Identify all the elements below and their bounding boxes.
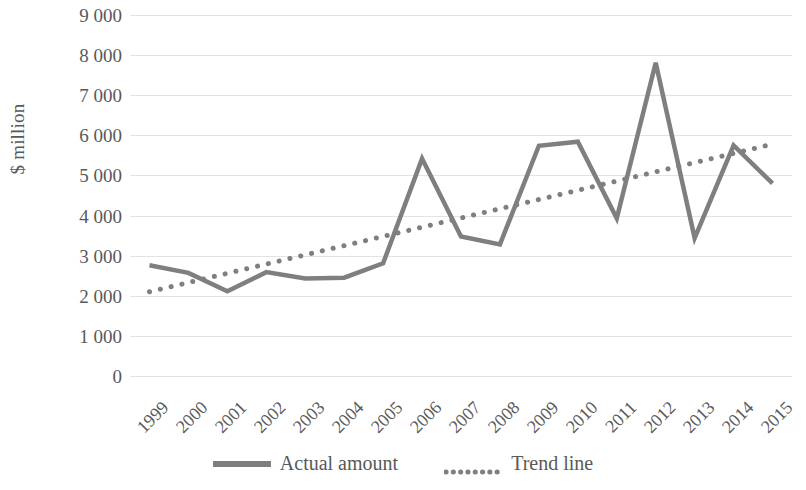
x-axis-tick-label: 2002	[245, 398, 289, 442]
legend-label: Trend line	[511, 452, 593, 475]
legend-label: Actual amount	[280, 452, 398, 475]
y-axis-tick-label: 2 000	[30, 287, 122, 306]
y-axis-tick-label: 4 000	[30, 207, 122, 226]
line-chart: $ million 9 0008 0007 0006 0005 0004 000…	[0, 0, 806, 490]
chart-legend: Actual amountTrend line	[0, 452, 806, 475]
x-axis-tick-label: 2010	[557, 398, 601, 442]
y-axis-title: $ million	[7, 79, 29, 199]
x-axis-tick-label: 1999	[128, 398, 172, 442]
legend-entry[interactable]: Trend line	[444, 452, 593, 475]
plot-series-svg	[130, 0, 792, 390]
x-axis-tick-label: 2003	[284, 398, 328, 442]
x-axis-tick-label: 2009	[518, 398, 562, 442]
y-axis-tick-label: 8 000	[30, 46, 122, 65]
y-axis-tick-label: 0	[30, 367, 122, 386]
y-axis-tick-label: 7 000	[30, 86, 122, 105]
y-axis-tick-label: 5 000	[30, 166, 122, 185]
x-axis-tick-label: 2004	[323, 398, 367, 442]
x-axis-tick-label: 2008	[479, 398, 523, 442]
y-axis-tick-labels: 9 0008 0007 0006 0005 0004 0003 0002 000…	[30, 0, 122, 390]
legend-entry[interactable]: Actual amount	[213, 452, 398, 475]
x-axis-tick-label: 2012	[635, 398, 679, 442]
solid-line-swatch	[213, 461, 271, 467]
series-line-trend-line	[149, 144, 772, 292]
x-axis-tick-label: 2015	[751, 398, 795, 442]
x-axis-tick-label: 2013	[674, 398, 718, 442]
dotted-line-swatch	[444, 461, 502, 467]
x-axis-tick-label: 2001	[206, 398, 250, 442]
series-line-actual-amount	[149, 63, 772, 292]
x-axis-tick-label: 2006	[401, 398, 445, 442]
x-axis-tick-label: 2007	[440, 398, 484, 442]
x-axis-tick-labels: 1999200020012002200320042005200620072008…	[130, 390, 792, 460]
y-axis-tick-label: 3 000	[30, 247, 122, 266]
x-axis-tick-label: 2005	[362, 398, 406, 442]
plot-area	[130, 0, 792, 390]
y-axis-tick-label: 1 000	[30, 327, 122, 346]
x-axis-tick-label: 2011	[596, 398, 640, 442]
x-axis-tick-label: 2000	[167, 398, 211, 442]
y-axis-tick-label: 6 000	[30, 126, 122, 145]
y-axis-tick-label: 9 000	[30, 6, 122, 25]
x-axis-tick-label: 2014	[712, 398, 756, 442]
